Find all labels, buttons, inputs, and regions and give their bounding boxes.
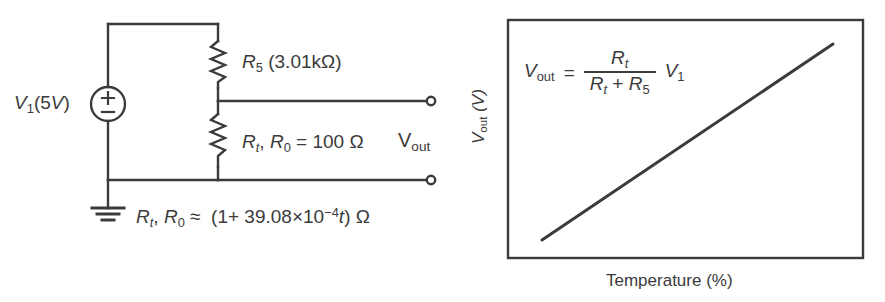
voltage-source-symbol: V: [14, 92, 27, 113]
rt-eq-r0-subscript: 0: [178, 215, 185, 230]
vout-subscript: out: [411, 139, 430, 154]
formula-fraction: Rt Rt + R5: [584, 48, 656, 96]
resistor-rt-zigzag: [211, 114, 225, 167]
formula-denominator: Rt + R5: [584, 73, 656, 96]
vout-symbol: V: [398, 129, 411, 151]
figure-root: V1(5V) R5 (3.01kΩ) Rt, R0 = 100 Ω Vout R…: [0, 0, 885, 302]
voltage-source-value-close: ): [63, 92, 69, 113]
output-terminal-top: [427, 97, 435, 105]
y-axis-subscript: out: [477, 117, 489, 133]
rt-eq-open: (1+ 39.08×10: [211, 206, 324, 227]
rt-eq-exponent: −4: [324, 205, 339, 220]
voltage-source-subscript: 1: [27, 101, 34, 116]
formula-mult-symbol: V: [665, 60, 678, 81]
output-terminal-bottom: [427, 176, 435, 184]
formula-den-symbol-2: R: [629, 73, 643, 94]
formula-lhs: Vout: [524, 61, 555, 84]
r0-symbol: R: [270, 131, 284, 152]
r0-subscript: 0: [284, 140, 291, 155]
rt-eq-close: ) Ω: [344, 206, 370, 227]
formula-num-subscript: t: [625, 56, 629, 71]
rt-eq-r0-symbol: R: [164, 206, 178, 227]
voltage-source-unit: V: [51, 92, 64, 113]
response-plot: [495, 0, 885, 302]
resistor-r5-label: R5 (3.01kΩ): [242, 52, 342, 75]
rt-subscript: t: [256, 140, 260, 155]
resistor-rt-label: Rt, R0 = 100 Ω: [242, 132, 364, 155]
voltage-source-value-open: (5: [34, 92, 51, 113]
formula-den-plus: +: [612, 73, 623, 94]
rt-eq-subscript: t: [150, 215, 154, 230]
formula-mult-subscript: 1: [677, 69, 684, 84]
plus-icon: [102, 92, 114, 104]
rt-equation-label: Rt, R0 ≈ (1+ 39.08×10−4t) Ω: [136, 207, 370, 230]
plot-formula: Vout = Rt Rt + R5 V1: [524, 48, 685, 96]
rt-symbol: R: [242, 131, 256, 152]
formula-numerator: Rt: [605, 48, 634, 71]
r5-symbol: R: [242, 51, 256, 72]
formula-den-symbol-1: R: [590, 73, 604, 94]
voltage-source-label: V1(5V): [14, 93, 70, 116]
y-axis-unit: (V): [469, 89, 488, 116]
formula-num-symbol: R: [611, 47, 625, 68]
x-axis-label: Temperature (%): [606, 272, 733, 289]
resistor-r5-zigzag: [211, 41, 225, 88]
y-axis-symbol: V: [469, 133, 488, 144]
formula-lhs-subscript: out: [537, 69, 555, 84]
formula-equals: =: [564, 63, 575, 82]
rt-eq-symbol: R: [136, 206, 150, 227]
r5-value: (3.01kΩ): [268, 51, 341, 72]
formula-multiplier: V1: [665, 61, 685, 84]
formula-den-subscript-1: t: [603, 82, 607, 97]
formula-den-subscript-2: 5: [642, 82, 649, 97]
rt-eq-approx: ≈: [190, 206, 200, 227]
formula-lhs-symbol: V: [524, 60, 537, 81]
y-axis-label: Vout (V): [470, 89, 490, 144]
output-voltage-label: Vout: [398, 130, 430, 153]
rt-value: = 100 Ω: [296, 131, 364, 152]
r5-subscript: 5: [256, 60, 263, 75]
